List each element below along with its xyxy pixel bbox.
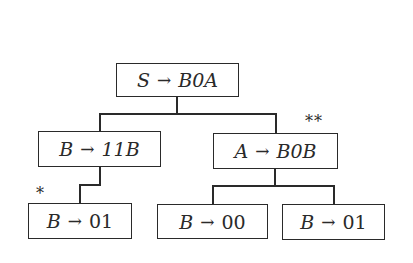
connector-right-horizontal (212, 185, 334, 187)
single-star-mark: * (36, 184, 45, 203)
arrow-icon: → (68, 211, 82, 231)
node-rhs: B0B (276, 140, 316, 162)
connector-to-right-right (333, 185, 335, 205)
node-rhs: 00 (222, 211, 246, 233)
connector-to-left (99, 113, 101, 132)
node-rhs: 01 (89, 210, 113, 232)
node-lhs: A (235, 140, 249, 162)
connector-right-down (274, 168, 276, 186)
connector-to-left-left (79, 184, 81, 204)
node-rhs: 11B (102, 138, 140, 160)
node-rhs: 01 (343, 211, 367, 233)
node-lhs: S (137, 69, 150, 91)
node-lhs: B (59, 138, 73, 160)
node-root: S → B0A (116, 63, 239, 97)
connector-left-down (99, 166, 101, 185)
connector-root-horizontal (99, 113, 276, 115)
node-right: A → B0B (213, 133, 338, 169)
arrow-icon: → (157, 70, 171, 90)
connector-to-right-left (212, 185, 214, 205)
arrow-icon: → (200, 212, 214, 232)
arrow-icon: → (255, 141, 269, 161)
connector-to-right (275, 113, 277, 133)
node-left-left: B → 01 (28, 203, 132, 239)
node-right-right: B → 01 (282, 204, 385, 240)
derivation-tree-diagram: S → B0A B → 11B A → B0B ** B → 01 * B → … (0, 0, 413, 263)
connector-left-horizontal (79, 184, 101, 186)
node-lhs: B (300, 211, 314, 233)
node-left: B → 11B (38, 131, 161, 167)
arrow-icon: → (80, 139, 94, 159)
node-lhs: B (179, 211, 193, 233)
node-right-left: B → 00 (157, 204, 268, 239)
node-lhs: B (47, 210, 61, 232)
double-star-mark: ** (305, 112, 323, 131)
node-rhs: B0A (178, 69, 218, 91)
arrow-icon: → (321, 212, 335, 232)
